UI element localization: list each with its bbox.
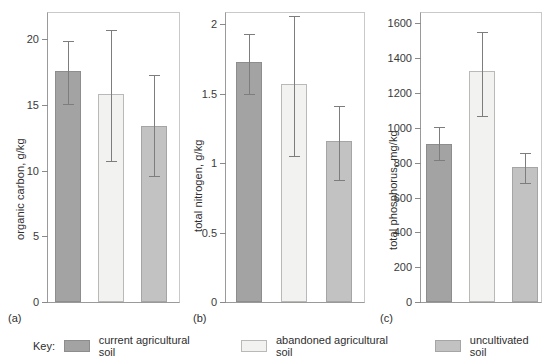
y-tick-mark	[415, 198, 421, 199]
legend: Key: current agricultural soil abandoned…	[0, 334, 547, 358]
error-bar-line	[111, 30, 112, 161]
error-bar-line	[339, 106, 340, 180]
error-bar-cap-lower	[434, 160, 445, 161]
legend-swatch-icon-1	[241, 340, 267, 352]
error-bar-cap-lower	[289, 156, 300, 157]
bar	[512, 167, 538, 302]
y-tick-mark	[42, 302, 48, 303]
bar	[236, 62, 262, 302]
error-bar-line	[68, 41, 69, 104]
error-bar-line	[154, 75, 155, 176]
y-tick-label: 15	[27, 97, 39, 113]
y-tick-label: 10	[27, 163, 39, 179]
panel-a-caption: (a)	[8, 312, 21, 324]
error-bar-cap-upper	[106, 30, 117, 31]
legend-label-0: current agricultural soil	[99, 334, 208, 358]
error-bar-cap-upper	[434, 127, 445, 128]
y-tick-mark	[42, 39, 48, 40]
y-tick-label: 1400	[388, 50, 412, 66]
panel-c-plot-area: 02004006008001000120014001600	[421, 13, 541, 302]
error-bar-cap-upper	[520, 153, 531, 154]
legend-label-2: uncultivated soil	[470, 334, 547, 358]
panel-b-caption: (b)	[193, 312, 206, 324]
bar	[55, 71, 81, 302]
legend-label-1: abandoned agricultural soil	[276, 334, 406, 358]
panel-a: organic carbon, g/kg 05101520 (a)	[0, 0, 185, 330]
y-tick-mark	[415, 163, 421, 164]
y-tick-mark	[220, 233, 226, 234]
y-tick-mark	[415, 58, 421, 59]
y-tick-label: 5	[33, 228, 39, 244]
panel-a-plot-frame: 05101520	[47, 12, 180, 303]
legend-item-2: uncultivated soil	[435, 334, 547, 358]
error-bar-cap-upper	[149, 75, 160, 76]
legend-item-1: abandoned agricultural soil	[241, 334, 405, 358]
error-bar-cap-lower	[334, 180, 345, 181]
error-bar-cap-lower	[106, 161, 117, 162]
y-tick-label: 20	[27, 31, 39, 47]
error-bar-line	[439, 127, 440, 160]
y-tick-label: 1.5	[202, 86, 217, 102]
error-bar-line	[482, 32, 483, 116]
error-bar-cap-lower	[520, 183, 531, 184]
figure-soil-properties: organic carbon, g/kg 05101520 (a) total …	[0, 0, 547, 362]
error-bar-cap-upper	[477, 32, 488, 33]
y-tick-label: 400	[394, 224, 412, 240]
y-tick-mark	[415, 302, 421, 303]
y-tick-mark	[220, 302, 226, 303]
y-tick-label: 0	[406, 294, 412, 310]
panel-a-plot-area: 05101520	[48, 13, 179, 302]
y-tick-mark	[220, 24, 226, 25]
y-tick-label: 200	[394, 259, 412, 275]
error-bar-line	[294, 16, 295, 156]
legend-swatch-icon-0	[64, 340, 90, 352]
y-tick-mark	[220, 163, 226, 164]
panel-b-y-axis-title: total nitrogen, g/kg	[192, 139, 204, 232]
y-tick-label: 800	[394, 155, 412, 171]
legend-swatch-icon-2	[435, 340, 461, 352]
y-tick-label: 0	[211, 294, 217, 310]
y-tick-mark	[415, 23, 421, 24]
y-tick-label: 1	[211, 155, 217, 171]
y-tick-mark	[415, 267, 421, 268]
error-bar-cap-lower	[63, 104, 74, 105]
panel-c-plot-frame: 02004006008001000120014001600	[420, 12, 542, 303]
legend-key-label: Key:	[33, 340, 55, 352]
error-bar-cap-upper	[244, 34, 255, 35]
bar	[426, 144, 452, 302]
y-tick-label: 0	[33, 294, 39, 310]
error-bar-cap-lower	[149, 176, 160, 177]
y-tick-mark	[415, 232, 421, 233]
y-tick-label: 1600	[388, 15, 412, 31]
error-bar-cap-lower	[244, 94, 255, 95]
error-bar-cap-upper	[334, 106, 345, 107]
panel-c-caption: (c)	[380, 312, 393, 324]
panel-b-plot-area: 00.511.52	[226, 13, 364, 302]
legend-item-0: current agricultural soil	[64, 334, 208, 358]
error-bar-line	[249, 34, 250, 94]
y-tick-mark	[415, 128, 421, 129]
y-tick-mark	[42, 105, 48, 106]
y-tick-mark	[42, 171, 48, 172]
error-bar-cap-upper	[289, 16, 300, 17]
y-tick-mark	[42, 236, 48, 237]
error-bar-cap-lower	[477, 116, 488, 117]
y-tick-label: 600	[394, 190, 412, 206]
y-tick-mark	[220, 94, 226, 95]
error-bar-line	[525, 153, 526, 183]
y-tick-label: 2	[211, 16, 217, 32]
panel-c: total phosphorus, mg/kg 0200400600800100…	[370, 0, 547, 330]
panel-b-plot-frame: 00.511.52	[225, 12, 365, 303]
panel-b: total nitrogen, g/kg 00.511.52 (b)	[185, 0, 370, 330]
y-tick-mark	[415, 93, 421, 94]
y-tick-label: 1000	[388, 120, 412, 136]
panel-a-y-axis-title: organic carbon, g/kg	[14, 138, 26, 240]
y-tick-label: 1200	[388, 85, 412, 101]
error-bar-cap-upper	[63, 41, 74, 42]
y-tick-label: 0.5	[202, 225, 217, 241]
